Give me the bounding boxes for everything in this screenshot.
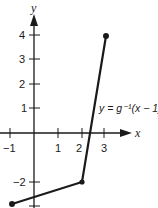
y-tick-label-4: 4 <box>19 29 25 41</box>
endpoint-top <box>103 33 109 39</box>
x-tick-label-1: 1 <box>55 142 61 154</box>
y-tick-label-3: 3 <box>19 53 25 65</box>
vertex-point <box>79 179 84 184</box>
chart: y x 4 3 2 1 −2 −1 1 2 3 y = g⁻¹(x − 1) <box>0 0 158 208</box>
y-tick-label-neg2: −2 <box>13 176 26 188</box>
y-tick-label-1: 1 <box>21 102 27 114</box>
x-tick-label-neg1: −1 <box>3 142 16 154</box>
y-axis-label: y <box>30 1 37 15</box>
x-tick-label-3: 3 <box>101 142 107 154</box>
x-axis-arrow-icon <box>120 129 132 137</box>
function-label: y = g⁻¹(x − 1) <box>98 102 158 114</box>
y-tick-label-2: 2 <box>19 78 25 90</box>
y-axis-arrow-icon <box>30 14 38 26</box>
x-axis-label: x <box>134 126 141 140</box>
endpoint-left <box>9 201 15 207</box>
x-tick-label-2: 2 <box>76 142 82 154</box>
function-curve <box>12 36 106 204</box>
